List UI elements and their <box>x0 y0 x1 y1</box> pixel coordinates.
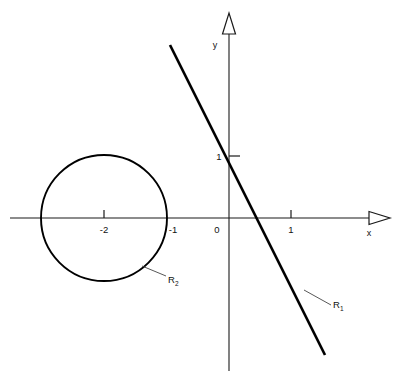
region-label-r1: R1 <box>333 299 344 312</box>
region-label-r1-subscript: 1 <box>340 305 344 312</box>
x-tick-label-0: 0 <box>214 224 219 235</box>
x-tick-label-1: 1 <box>288 224 293 235</box>
x-axis-label: x <box>367 228 372 238</box>
r1-leader-line <box>304 290 331 305</box>
y-axis-arrow-icon <box>223 13 236 34</box>
x-axis-arrow-icon <box>369 212 390 225</box>
y-tick-label-1: 1 <box>216 151 221 162</box>
coordinate-plane-svg: -2 -1 0 1 1 x y R2 R1 <box>0 0 406 383</box>
region-label-r2: R2 <box>168 274 179 287</box>
region-label-r2-subscript: 2 <box>175 280 179 287</box>
tick-marks-group <box>104 156 291 218</box>
y-axis-label: y <box>213 40 218 50</box>
axes-group <box>10 13 390 371</box>
r2-leader-line <box>142 266 166 276</box>
x-tick-label-minus2: -2 <box>100 224 108 235</box>
x-tick-label-minus1: -1 <box>169 224 177 235</box>
region-r1-line <box>170 45 325 355</box>
math-figure: -2 -1 0 1 1 x y R2 R1 <box>0 0 406 383</box>
